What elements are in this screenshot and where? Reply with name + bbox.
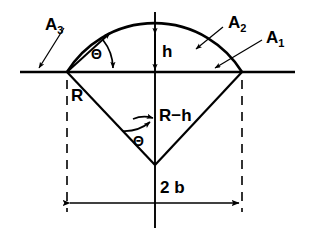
label-area-a1-subscript: 1: [278, 37, 284, 49]
label-height: h: [162, 43, 172, 60]
label-area-a3: A3: [45, 16, 63, 33]
label-area-a3-text: A: [45, 15, 57, 34]
label-area-a2-subscript: 2: [240, 22, 246, 34]
angle-arc-bottom: [122, 122, 150, 131]
leader-line-a1: [215, 40, 262, 68]
label-apothem: R−h: [159, 107, 192, 124]
label-chord: 2 b: [160, 179, 185, 196]
apothem-pointer-arrow: [133, 117, 153, 119]
label-area-a3-subscript: 3: [57, 24, 63, 36]
angle-arc-top: [103, 40, 113, 68]
label-angle-bottom: Θ: [133, 134, 144, 148]
label-angle-top: Θ: [91, 47, 102, 61]
label-radius: R: [71, 87, 83, 104]
label-area-a2: A2: [228, 14, 246, 31]
label-area-a2-text: A: [228, 13, 240, 32]
label-area-a1-text: A: [266, 28, 278, 47]
tangent-ray-line: [67, 33, 110, 72]
label-area-a1: A1: [266, 29, 284, 46]
figure-canvas: A3 A2 A1 h R R−h 2 b Θ Θ: [0, 0, 312, 240]
